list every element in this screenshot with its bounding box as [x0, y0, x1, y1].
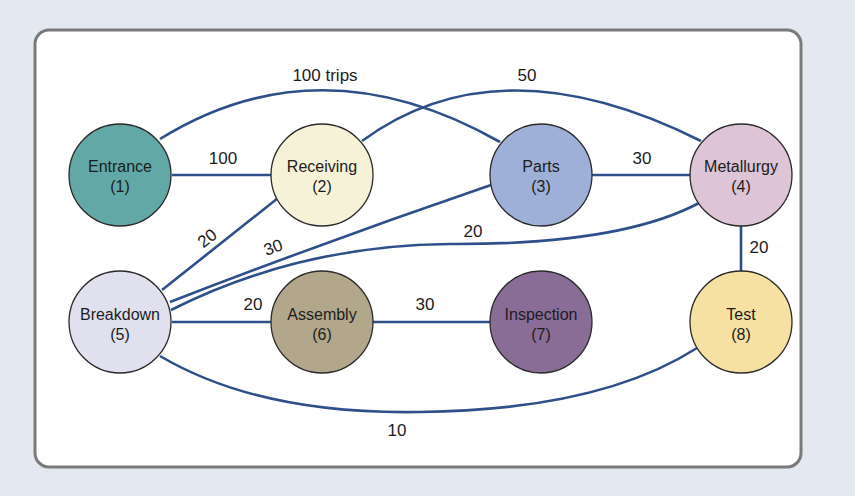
node-test: Test (8)	[690, 271, 792, 373]
node-name: Assembly	[287, 306, 356, 323]
node-inspection: Inspection (7)	[490, 271, 592, 373]
node-number: (1)	[110, 178, 130, 195]
node-name: Breakdown	[80, 306, 160, 323]
edge-label-metallurgy-test: 20	[750, 238, 769, 257]
node-circle	[490, 124, 592, 226]
node-parts: Parts (3)	[490, 124, 592, 226]
edge-label-breakdown-test: 10	[388, 421, 407, 440]
node-breakdown: Breakdown (5)	[69, 271, 171, 373]
node-number: (6)	[312, 326, 332, 343]
node-name: Parts	[522, 158, 559, 175]
node-name: Test	[726, 306, 756, 323]
node-number: (5)	[110, 326, 130, 343]
edge-label-breakdown-assembly: 20	[244, 295, 263, 314]
edge-label-entrance-receiving: 100	[209, 149, 237, 168]
diagram-panel	[35, 30, 801, 467]
node-receiving: Receiving (2)	[271, 124, 373, 226]
edge-label-assembly-inspection: 30	[416, 295, 435, 314]
node-name: Receiving	[287, 158, 357, 175]
node-metallurgy: Metallurgy (4)	[690, 124, 792, 226]
node-circle	[69, 124, 171, 226]
node-number: (8)	[731, 326, 751, 343]
node-number: (3)	[531, 178, 551, 195]
node-entrance: Entrance (1)	[69, 124, 171, 226]
node-name: Entrance	[88, 158, 152, 175]
node-circle	[690, 124, 792, 226]
trip-flow-diagram: 100 100 trips 50 30 20 30 20 20 20 30 10…	[0, 0, 855, 496]
node-circle	[271, 124, 373, 226]
node-number: (4)	[731, 178, 751, 195]
node-name: Inspection	[505, 306, 578, 323]
node-assembly: Assembly (6)	[271, 271, 373, 373]
node-number: (2)	[312, 178, 332, 195]
node-name: Metallurgy	[704, 158, 778, 175]
edge-label-entrance-parts: 100 trips	[292, 66, 357, 85]
edge-label-breakdown-metallurgy: 20	[464, 222, 483, 241]
edge-label-receiving-metallurgy: 50	[518, 66, 537, 85]
edge-label-parts-metallurgy: 30	[633, 149, 652, 168]
node-number: (7)	[531, 326, 551, 343]
